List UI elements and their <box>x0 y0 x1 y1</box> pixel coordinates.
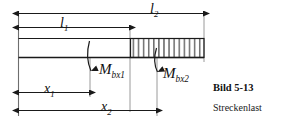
dimension-label-x2-subscript: 2 <box>107 107 111 117</box>
dimension-label-x1: x1 <box>44 82 55 98</box>
moment-label-mbx1-base: M <box>99 61 112 77</box>
moment-label-mbx1-subscript: bx1 <box>112 70 125 80</box>
moment-label-mbx2-base: M <box>163 65 176 81</box>
figure-container: l2 l1 x1 x2 Mbx1 Mbx2 Bild 5-13 Strecken… <box>0 0 281 130</box>
dimension-label-l2: l2 <box>150 2 158 18</box>
moment-label-mbx2: Mbx2 <box>163 66 189 84</box>
dimension-label-l1-subscript: 1 <box>64 23 68 33</box>
figure-caption-subtitle: Streckenlast <box>213 102 281 114</box>
dimension-label-x1-subscript: 1 <box>50 89 54 99</box>
dimension-label-l1: l1 <box>60 16 68 32</box>
moment-label-mbx1: Mbx1 <box>99 62 125 80</box>
dimension-label-x2: x2 <box>101 100 112 116</box>
distributed-load-block <box>131 39 205 58</box>
dimension-label-l2-subscript: 2 <box>154 9 158 19</box>
figure-caption-title: Bild 5-13 <box>213 82 281 94</box>
figure-caption: Bild 5-13 Streckenlast <box>213 82 281 114</box>
moment-label-mbx2-subscript: bx2 <box>176 74 189 84</box>
